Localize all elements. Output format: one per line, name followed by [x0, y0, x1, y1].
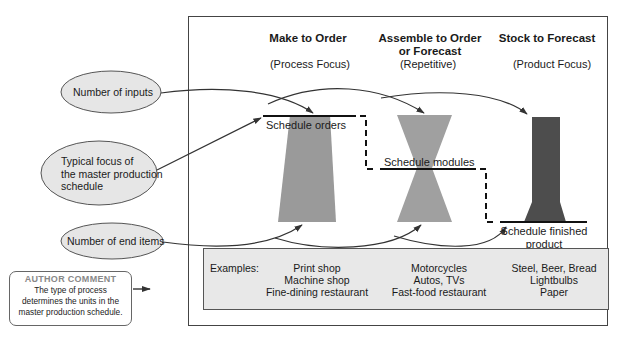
example-item: Machine shop: [262, 274, 372, 286]
examples-assemble-to-order: Motorcycles Autos, TVs Fast-food restaur…: [384, 262, 494, 298]
schedule-modules-label: Schedule modules: [384, 156, 475, 169]
arrow-inputs-to-col1: [161, 89, 313, 113]
col1-title: Make to Order: [248, 32, 368, 45]
example-item: Motorcycles: [384, 262, 494, 274]
number-of-end-items-label: Number of end items: [67, 235, 164, 248]
examples-label: Examples:: [210, 262, 259, 274]
example-item: Autos, TVs: [384, 274, 494, 286]
col2-title-line-1: Assemble to Order: [365, 32, 495, 45]
examples-box: Examples: Print shop Machine shop Fine-d…: [203, 248, 609, 310]
col3-subtitle: (Product Focus): [497, 58, 607, 70]
example-item: Lightbulbs: [504, 274, 604, 286]
arrow-inputs-to-col3: [381, 93, 527, 114]
schedule-finished-product-label: Schedule finished product: [500, 225, 588, 250]
example-item: Steel, Beer, Bread: [504, 262, 604, 274]
arrow-inputs-to-col2: [268, 89, 424, 113]
schedule-finished-line-1: Schedule finished: [500, 225, 588, 238]
examples-stock-to-forecast: Steel, Beer, Bread Lightbulbs Paper: [504, 262, 604, 298]
examples-make-to-order: Print shop Machine shop Fine-dining rest…: [262, 262, 372, 298]
col2-title-line-2: or Forecast: [365, 45, 495, 58]
number-of-inputs-label: Number of inputs: [73, 86, 153, 99]
example-item: Print shop: [262, 262, 372, 274]
schedule-orders-label: Schedule orders: [266, 119, 346, 132]
col2-subtitle: (Repetitive): [373, 58, 483, 70]
col1-subtitle: (Process Focus): [250, 58, 370, 70]
typical-focus-label: Typical focus of the master production s…: [61, 155, 163, 193]
author-comment-line: The type of process: [15, 285, 126, 296]
author-comment-line: determines the units in the: [15, 296, 126, 307]
example-item: Fine-dining restaurant: [262, 286, 372, 298]
author-comment-line: master production schedule.: [15, 307, 126, 318]
arrow-enditems-to-col3: [394, 227, 506, 246]
example-item: Paper: [504, 286, 604, 298]
col3-title-line: Stock to Forecast: [499, 32, 596, 44]
col1-title-line: Make to Order: [269, 32, 346, 44]
col3-title: Stock to Forecast: [497, 32, 597, 45]
stock-to-forecast-shape: [524, 117, 566, 222]
example-item: Fast-food restaurant: [384, 286, 494, 298]
arrow-enditems-to-col1: [163, 225, 302, 246]
author-comment-body: The type of process determines the units…: [15, 285, 126, 318]
focus-line-1: Typical focus of: [61, 155, 163, 168]
col2-title: Assemble to Order or Forecast: [365, 32, 495, 58]
focus-line-3: schedule: [61, 180, 163, 193]
author-comment-box: AUTHOR COMMENT The type of process deter…: [9, 271, 132, 326]
author-comment-heading: AUTHOR COMMENT: [10, 274, 131, 285]
dashed-step-2: [480, 169, 496, 222]
arrow-focus-to-schedule: [157, 118, 261, 170]
focus-line-2: the master production: [61, 168, 163, 181]
dashed-step-1: [360, 116, 374, 169]
